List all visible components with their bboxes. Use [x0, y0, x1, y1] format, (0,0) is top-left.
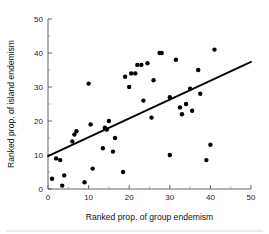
- data-point: [105, 127, 109, 131]
- data-point: [113, 136, 117, 140]
- data-point: [58, 158, 62, 162]
- data-point: [90, 166, 94, 170]
- chart-canvas: 0102030405001020304050Ranked prop. of gr…: [0, 0, 269, 234]
- data-point: [212, 47, 216, 51]
- y-tick-label: 50: [34, 15, 43, 24]
- data-point: [74, 129, 78, 133]
- x-tick-label: 20: [125, 193, 134, 202]
- data-point: [184, 102, 188, 106]
- data-point: [149, 115, 153, 119]
- data-point: [198, 92, 202, 96]
- data-point: [139, 63, 143, 67]
- x-tick-label: 0: [46, 193, 51, 202]
- y-tick-label: 40: [34, 49, 43, 58]
- x-tick-label: 10: [84, 193, 93, 202]
- data-point: [151, 78, 155, 82]
- data-point: [60, 183, 64, 187]
- y-tick-label: 10: [34, 151, 43, 160]
- x-tick-label: 30: [165, 193, 174, 202]
- data-point: [168, 95, 172, 99]
- data-point: [50, 177, 54, 181]
- data-point: [141, 98, 145, 102]
- data-point: [86, 81, 90, 85]
- data-point: [101, 146, 105, 150]
- regression-line: [48, 62, 251, 156]
- data-point: [145, 61, 149, 65]
- data-point: [188, 87, 192, 91]
- x-tick-label: 50: [247, 193, 256, 202]
- data-point: [168, 153, 172, 157]
- data-point: [196, 68, 200, 72]
- scatter-plot-figure: 0102030405001020304050Ranked prop. of gr…: [0, 0, 269, 234]
- data-point: [62, 173, 66, 177]
- data-point: [190, 109, 194, 113]
- x-axis-title: Ranked prop. of group endemism: [86, 212, 214, 222]
- y-tick-label: 0: [39, 185, 44, 194]
- y-tick-label: 30: [34, 83, 43, 92]
- x-tick-label: 40: [206, 193, 215, 202]
- data-point: [111, 149, 115, 153]
- data-point: [129, 71, 133, 75]
- data-point: [107, 119, 111, 123]
- data-point: [127, 85, 131, 89]
- data-point: [121, 170, 125, 174]
- data-point: [70, 139, 74, 143]
- data-point: [178, 105, 182, 109]
- data-point: [123, 75, 127, 79]
- data-point: [174, 58, 178, 62]
- data-point: [159, 51, 163, 55]
- data-point: [180, 112, 184, 116]
- y-tick-label: 20: [34, 117, 43, 126]
- data-point: [133, 71, 137, 75]
- data-point: [135, 63, 139, 67]
- data-point: [88, 122, 92, 126]
- data-point: [54, 156, 58, 160]
- data-point: [204, 158, 208, 162]
- data-point: [82, 180, 86, 184]
- data-point: [208, 143, 212, 147]
- y-axis-title: Ranked prop. of island endemism: [6, 40, 16, 168]
